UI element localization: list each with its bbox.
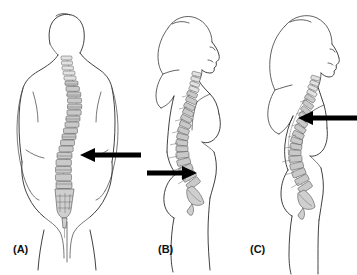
coccyx [298, 208, 305, 219]
sacrum [187, 186, 204, 205]
coccyx [187, 204, 194, 215]
hair-outline [156, 16, 212, 108]
cervical-vertebrae [189, 71, 202, 93]
panel-b-lateral-lordosis [122, 0, 237, 275]
vertebral-column-lateral-kyphosis [282, 75, 320, 219]
panel-label-b: (B) [158, 243, 173, 255]
sacrum [55, 189, 74, 218]
panel-c-lateral-kyphosis [237, 0, 357, 275]
sacrum [298, 190, 315, 209]
vertebral-column-posterior [55, 56, 82, 238]
panel-label-a: (A) [13, 243, 28, 255]
face-profile [199, 42, 219, 81]
lumbar-vertebrae [176, 151, 201, 190]
cervical-vertebrae [307, 75, 321, 97]
panel-a-posterior-view [0, 0, 122, 275]
panel-b-illustration [122, 0, 237, 275]
vertebral-column-lateral-lordosis [169, 71, 204, 215]
figure-root: (A) (B) (C) [0, 0, 357, 275]
panel-label-c: (C) [250, 243, 265, 255]
lumbar-vertebrae [289, 155, 313, 194]
panel-a-illustration [0, 0, 122, 275]
thoracic-vertebrae [176, 90, 198, 152]
head-back-outline [49, 14, 84, 55]
face-profile [318, 44, 339, 87]
panel-c-illustration [237, 0, 357, 275]
coccyx [62, 218, 67, 228]
